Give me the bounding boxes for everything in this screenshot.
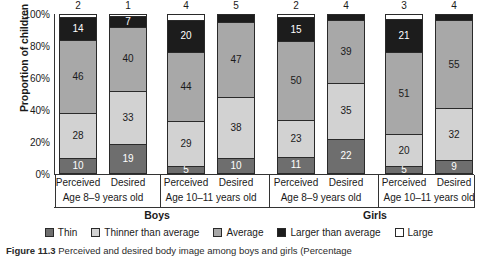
x-axis-tick-label: Desired xyxy=(424,177,478,188)
stacked-bar[interactable]: 11235015 xyxy=(277,14,315,174)
legend-label: Larger than average xyxy=(290,227,380,238)
y-axis-tick-label: 40% xyxy=(30,105,50,116)
bar-segment-avg[interactable]: 55 xyxy=(435,20,473,108)
stacked-bar[interactable]: 10284614 xyxy=(59,14,97,174)
y-axis-tick-label: 60% xyxy=(30,73,50,84)
bar-segment-large-avg[interactable] xyxy=(217,14,255,22)
caption-text: Perceived and desired body image among b… xyxy=(58,245,352,256)
caption-number: Figure 11.3 xyxy=(6,245,56,256)
bar-segment-value: 15 xyxy=(290,25,301,35)
bar-segment-large[interactable] xyxy=(109,14,147,16)
x-axis-tick-label: Desired xyxy=(98,177,158,188)
bar-segment-thinavg[interactable]: 23 xyxy=(277,120,315,156)
bar-segment-value: 32 xyxy=(448,130,459,140)
bar-segment-thin[interactable]: 19 xyxy=(109,144,147,174)
y-axis-tick-label: 80% xyxy=(30,41,50,52)
bar-segment-large-avg[interactable] xyxy=(327,14,365,20)
bar-segment-thin[interactable]: 5 xyxy=(385,166,423,174)
bar-segment-value: 10 xyxy=(230,161,241,171)
stacked-bar[interactable]: 103847 xyxy=(217,14,255,174)
bar-segment-large[interactable] xyxy=(277,14,315,17)
bar-segment-value: 20 xyxy=(180,31,191,41)
bar-segment-large-avg[interactable]: 7 xyxy=(109,16,147,27)
x-axis-group-label: Age 10–11 years old xyxy=(153,192,269,203)
plot-area: 2102846141193340745294420510384721123501… xyxy=(55,14,475,174)
bar-segment-value: 46 xyxy=(72,72,83,82)
legend-swatch-large xyxy=(395,228,404,237)
stacked-bar[interactable]: 5294420 xyxy=(167,14,205,174)
bar-segment-value: 14 xyxy=(72,24,83,34)
bar-segment-thin[interactable]: 11 xyxy=(277,157,315,174)
bar-segment-value: 23 xyxy=(290,134,301,144)
bar-segment-value: 5 xyxy=(401,165,407,175)
bar-segment-value: 10 xyxy=(72,161,83,171)
bar-segment-large-avg[interactable]: 14 xyxy=(59,17,97,39)
bar-segment-thin[interactable]: 22 xyxy=(327,139,365,174)
legend-swatch-large-avg xyxy=(277,228,286,237)
x-axis-group-label: Age 8–9 years old xyxy=(45,192,161,203)
x-axis-group-divider-line xyxy=(54,207,475,208)
stacked-bar[interactable]: 5205121 xyxy=(385,14,423,174)
bar-top-label: 4 xyxy=(167,0,205,11)
bar-segment-value: 44 xyxy=(180,82,191,92)
bar-segment-value: 55 xyxy=(448,60,459,70)
x-axis-group-separator xyxy=(378,175,379,207)
bar-segment-thinavg[interactable]: 38 xyxy=(217,97,255,158)
bar-segment-value: 9 xyxy=(451,162,457,172)
bar-segment-large-avg[interactable] xyxy=(435,14,473,20)
bar-segment-avg[interactable]: 46 xyxy=(59,40,97,114)
stacked-bar[interactable]: 93255 xyxy=(435,14,473,174)
bar-top-label: 5 xyxy=(217,0,255,11)
bar-segment-value: 40 xyxy=(122,54,133,64)
bar-top-label: 4 xyxy=(327,0,365,11)
bar-segment-large-avg[interactable]: 20 xyxy=(167,20,205,51)
bar-segment-value: 5 xyxy=(183,165,189,175)
bar-segment-thin[interactable]: 10 xyxy=(217,158,255,174)
x-axis-labels: PerceivedDesiredPerceivedDesiredPerceive… xyxy=(55,175,475,209)
bar-segment-avg[interactable]: 51 xyxy=(385,52,423,134)
bar-segment-thinavg[interactable]: 35 xyxy=(327,83,365,139)
bar-segment-thin[interactable]: 5 xyxy=(167,166,205,174)
bar-segment-thinavg[interactable]: 32 xyxy=(435,108,473,159)
x-axis-group-separator xyxy=(474,175,475,207)
figure-caption: Figure 11.3 Perceived and desired body i… xyxy=(6,245,472,256)
bar-segment-avg[interactable]: 44 xyxy=(167,52,205,121)
bar-segment-value: 33 xyxy=(122,113,133,123)
legend-item[interactable]: Thin xyxy=(45,227,77,238)
y-axis-tick-label: 20% xyxy=(30,137,50,148)
bar-segment-large[interactable] xyxy=(385,14,423,19)
bar-segment-avg[interactable]: 47 xyxy=(217,22,255,97)
bar-top-label: 3 xyxy=(385,0,423,11)
bar-segment-avg[interactable]: 50 xyxy=(277,41,315,120)
legend-swatch-thin xyxy=(45,228,54,237)
bar-segment-thinavg[interactable]: 28 xyxy=(59,113,97,158)
bar-segment-value: 21 xyxy=(398,31,409,41)
bar-segment-large-avg[interactable]: 15 xyxy=(277,17,315,41)
bar-segment-avg[interactable]: 39 xyxy=(327,20,365,82)
bar-segment-avg[interactable]: 40 xyxy=(109,27,147,91)
bar-segment-value: 29 xyxy=(180,139,191,149)
legend-label: Thinner than average xyxy=(104,227,199,238)
bar-segment-large-avg[interactable]: 21 xyxy=(385,19,423,53)
legend-item[interactable]: Thinner than average xyxy=(91,227,199,238)
bar-segment-value: 28 xyxy=(72,131,83,141)
y-axis-tick-label: 100% xyxy=(24,9,50,20)
bar-segment-large[interactable] xyxy=(167,14,205,20)
bar-segment-thinavg[interactable]: 20 xyxy=(385,134,423,166)
bar-segment-thin[interactable]: 9 xyxy=(435,160,473,174)
bar-segment-thin[interactable]: 10 xyxy=(59,158,97,174)
legend-item[interactable]: Larger than average xyxy=(277,227,380,238)
bar-segment-large[interactable] xyxy=(59,14,97,17)
stacked-bar[interactable]: 1933407 xyxy=(109,14,147,174)
stacked-bar[interactable]: 223539 xyxy=(327,14,365,174)
x-axis-group-separator xyxy=(269,175,270,207)
bar-segment-value: 47 xyxy=(230,55,241,65)
bar-segment-value: 51 xyxy=(398,89,409,99)
legend-item[interactable]: Average xyxy=(213,227,263,238)
x-axis-group-separator xyxy=(55,175,56,207)
bar-segment-thinavg[interactable]: 29 xyxy=(167,121,205,166)
legend-item[interactable]: Large xyxy=(395,227,434,238)
figure-stacked-bar-chart: Proportion of children 0%20%40%60%80%100… xyxy=(0,0,478,256)
x-axis-group-separator xyxy=(160,175,161,207)
bar-segment-thinavg[interactable]: 33 xyxy=(109,91,147,144)
